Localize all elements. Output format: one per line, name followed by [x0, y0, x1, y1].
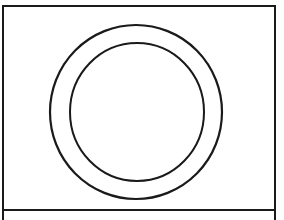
ring-drawing — [0, 0, 284, 220]
inner-circle — [70, 43, 204, 181]
caption-panel — [2, 209, 276, 220]
outer-circle — [50, 25, 222, 199]
